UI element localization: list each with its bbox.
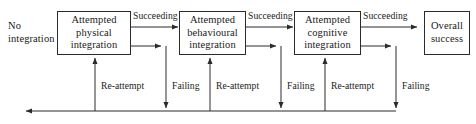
node-4-line2: success (431, 33, 463, 46)
edge-label-reattempt-2: Re-attempt (216, 80, 259, 91)
node-overall-success: Overall success (424, 11, 470, 55)
node-attempted-behavioural-integration: Attempted behavioural integration (179, 11, 246, 55)
node-attempted-cognitive-integration: Attempted cognitive integration (294, 11, 361, 55)
node-2-line1: Attempted (190, 14, 235, 27)
node-2-line3: integration (189, 39, 236, 52)
node-3-line3: integration (304, 39, 351, 52)
node-attempted-physical-integration: Attempted physical integration (57, 11, 131, 55)
node-1-line3: integration (71, 39, 118, 52)
start-label-line1: No (8, 20, 21, 31)
start-label-line2: integration (8, 33, 55, 44)
start-label: No integration (8, 20, 55, 45)
edge-label-succeeding-2: Succeeding (248, 10, 293, 21)
node-2-line2: behavioural (187, 27, 238, 40)
edge-label-failing-2: Failing (287, 80, 315, 91)
node-1-line1: Attempted (71, 14, 116, 27)
edge-label-reattempt-1: Re-attempt (101, 80, 144, 91)
edge-label-succeeding-1: Succeeding (133, 10, 178, 21)
edge-label-succeeding-3: Succeeding (363, 10, 408, 21)
node-4-line1: Overall (431, 20, 463, 33)
edge-label-failing-1: Failing (172, 80, 200, 91)
node-3-line1: Attempted (305, 14, 350, 27)
node-1-line2: physical (76, 27, 112, 40)
edge-label-failing-3: Failing (402, 80, 430, 91)
edge-label-reattempt-3: Re-attempt (331, 80, 374, 91)
node-3-line2: cognitive (308, 27, 348, 40)
flowchart-diagram: No integration Attempted physical integr… (0, 0, 476, 124)
